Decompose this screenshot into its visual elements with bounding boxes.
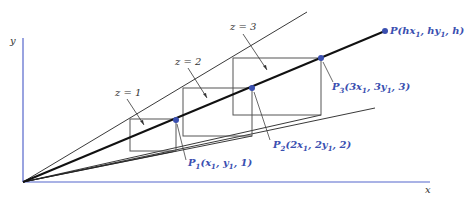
box-z3 [233,58,321,115]
x-axis-label: x [425,184,431,195]
point-p2 [249,85,255,91]
point-p1 [173,117,179,123]
arrowhead-z2 [203,93,207,98]
label-p: P(hx1, hy1, h) [389,25,465,39]
frustum-boxes [130,58,321,151]
point-p3 [318,55,324,61]
y-axis-label: y [9,35,16,46]
arrow-z3 [243,34,267,70]
point-p [382,28,388,34]
perspective-diagram: y x z = 1 z = 2 z = 3 P1(x1, y1, 1) [0,0,469,199]
label-p1: P1(x1, y1, 1) [187,157,253,171]
label-p3: P3(3x1, 3y1, 3) [331,81,410,95]
label-p2: P2(2x1, 2y1, 2) [272,139,351,153]
arrow-z2 [188,68,207,98]
arrowhead-z3 [263,65,267,70]
label-z1: z = 1 [114,87,141,98]
label-z2: z = 2 [174,56,201,67]
arrowhead-z1 [140,120,144,125]
label-z3: z = 3 [229,21,256,32]
projection-rays [23,12,375,182]
